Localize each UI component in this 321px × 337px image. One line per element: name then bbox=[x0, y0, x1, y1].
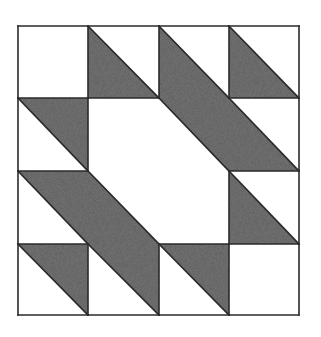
quilt-block-diagram bbox=[0, 0, 321, 337]
